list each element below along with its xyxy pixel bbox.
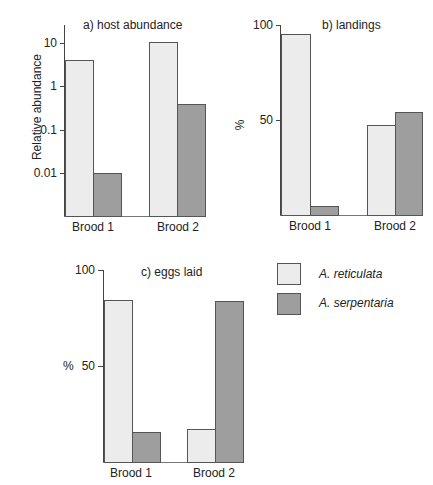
tick	[60, 43, 65, 44]
bar-brood2-serpentaria	[177, 104, 206, 217]
bar-brood2-reticulata	[187, 429, 216, 463]
bar-brood1-serpentaria	[310, 206, 339, 216]
tick-label: 0.1	[17, 123, 57, 137]
tick-label: 0.01	[17, 166, 57, 180]
chart-b-title: b) landings	[322, 18, 381, 32]
bar-brood1-serpentaria	[132, 432, 161, 463]
category-label: Brood 2	[148, 220, 208, 234]
bar-brood1-reticulata	[65, 60, 94, 217]
chart-a-title: a) host abundance	[83, 18, 182, 32]
bar-brood2-reticulata	[367, 125, 396, 216]
bar-brood2-serpentaria	[395, 112, 423, 216]
chart-a-ylabel: Relative abundance	[30, 52, 44, 162]
tick-label: 100	[233, 18, 273, 32]
chart-c-title: c) eggs laid	[141, 265, 202, 279]
legend-swatch-reticulata	[277, 263, 301, 285]
category-label: Brood 1	[101, 466, 161, 480]
tick-label: 10	[17, 36, 57, 50]
legend-label: A. serpentaria	[319, 296, 394, 310]
tick	[98, 270, 103, 271]
bar-brood1-serpentaria	[93, 173, 122, 217]
legend-swatch-serpentaria	[277, 293, 301, 315]
category-label: Brood 2	[184, 466, 244, 480]
bar-brood1-reticulata	[104, 300, 133, 463]
legend-label: A. reticulata	[319, 267, 382, 281]
category-label: Brood 1	[280, 219, 340, 233]
tick	[98, 366, 103, 367]
tick-label: 50	[55, 359, 95, 373]
bar-brood1-reticulata	[281, 34, 311, 216]
tick-label: 100	[55, 263, 95, 277]
category-label: Brood 2	[365, 219, 425, 233]
tick-label: 50	[233, 113, 273, 127]
category-label: Brood 1	[63, 220, 123, 234]
tick	[276, 25, 281, 26]
tick-label: 1	[17, 79, 57, 93]
bar-brood2-serpentaria	[215, 301, 244, 463]
bar-brood2-reticulata	[149, 42, 178, 217]
